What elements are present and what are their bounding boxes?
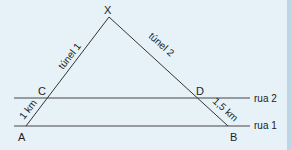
diagram-frame: X A B C D túnel 1 túnel 2 1 km 1,5 km ru… [0,0,291,150]
triangle-diagram: X A B C D túnel 1 túnel 2 1 km 1,5 km ru… [0,0,287,150]
ac-length-label: 1 km [17,97,39,121]
street-1-label: rua 1 [254,120,277,131]
point-a-label: A [18,131,26,143]
point-x-label: X [104,4,112,16]
tunnel-2-line [109,17,228,126]
tunnel-2-label: túnel 2 [147,30,177,59]
point-b-label: B [230,131,237,143]
street-2-label: rua 2 [254,93,277,104]
point-d-label: D [196,85,204,97]
tunnel-1-line [26,17,109,126]
point-c-label: C [38,85,46,97]
db-length-label: 1,5 km [211,95,241,123]
